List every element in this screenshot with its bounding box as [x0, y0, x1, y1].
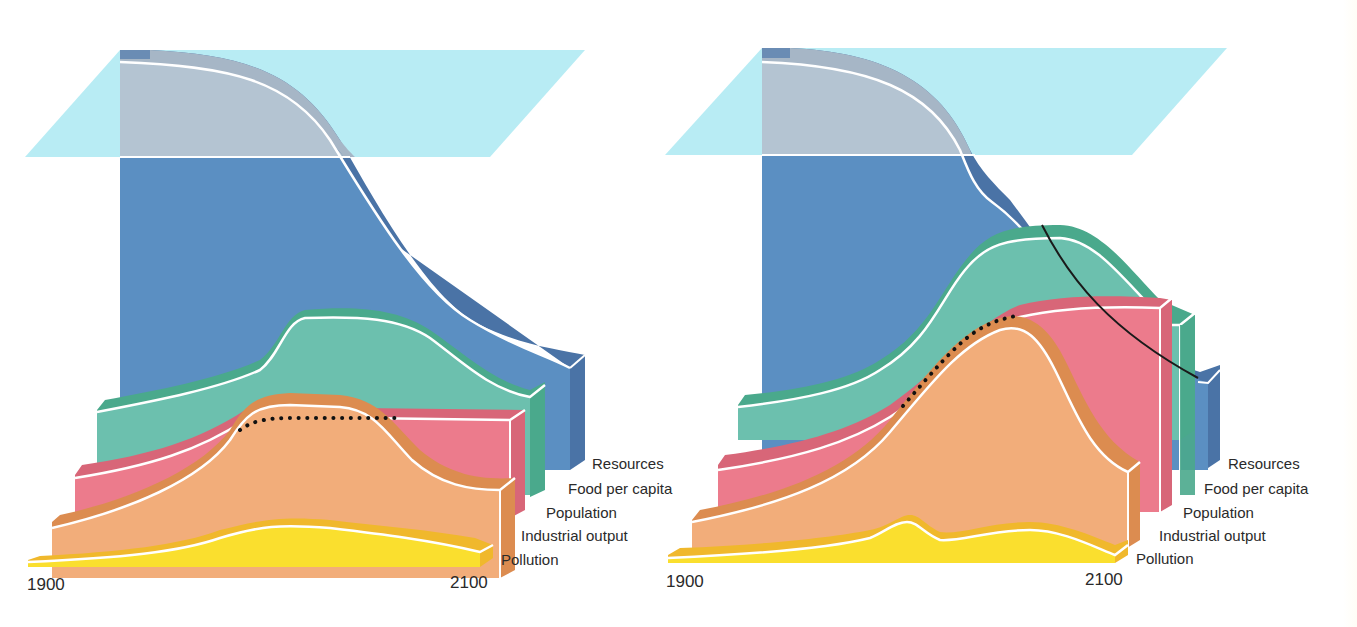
chart-alternate-run: Resources Food per capita Population Ind… — [640, 0, 1357, 627]
axis-start-year: 1900 — [27, 575, 65, 594]
label-pollution: Pollution — [1136, 550, 1194, 567]
label-population: Population — [1183, 504, 1254, 521]
label-pollution: Pollution — [501, 551, 559, 568]
chart-standard-run: Resources Food per capita Population Ind… — [0, 0, 680, 627]
label-resources: Resources — [1228, 455, 1300, 472]
label-industrial-output: Industrial output — [521, 527, 629, 544]
chart-standard-run-svg: Resources Food per capita Population Ind… — [0, 0, 680, 627]
axis-start-year: 1900 — [666, 572, 704, 591]
label-population: Population — [546, 504, 617, 521]
axis-end-year: 2100 — [450, 573, 488, 592]
chart-alternate-run-svg: Resources Food per capita Population Ind… — [640, 0, 1357, 627]
page-edge — [1343, 0, 1357, 627]
label-food-per-capita: Food per capita — [1204, 480, 1309, 497]
axis-end-year: 2100 — [1085, 570, 1123, 589]
label-industrial-output: Industrial output — [1159, 527, 1267, 544]
